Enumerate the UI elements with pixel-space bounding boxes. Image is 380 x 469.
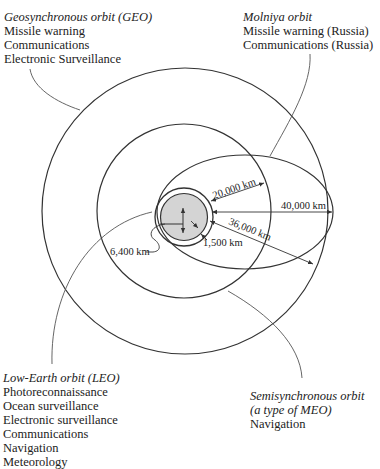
meo-leader-line	[228, 291, 302, 378]
leo-label-block: Low-Earth orbit (LEO) Photoreconnaissanc…	[3, 371, 120, 469]
meo-dimension-label: 20,000 km	[211, 176, 257, 201]
leo-use-5: Navigation	[3, 441, 120, 455]
molniya-leader-line	[270, 54, 310, 156]
geo-use-3: Electronic Surveillance	[4, 52, 152, 66]
leo-use-2: Ocean surveillance	[3, 399, 120, 413]
geo-leader-line	[30, 69, 80, 110]
geo-label-block: Geosynchronous orbit (GEO) Missile warni…	[4, 10, 152, 66]
earth	[161, 194, 208, 241]
leo-use-6: Meteorology	[3, 455, 120, 469]
leo-use-4: Communications	[3, 427, 120, 441]
leo-leader-line	[52, 212, 152, 364]
meo-title-line2: (a type of MEO)	[250, 403, 364, 417]
leo-dimension-label: 1,500 km	[203, 237, 243, 248]
geo-use-2: Communications	[4, 38, 152, 52]
leo-title: Low-Earth orbit (LEO)	[3, 371, 120, 385]
geo-use-1: Missile warning	[4, 24, 152, 38]
meo-title-line1: Semisynchronous orbit	[250, 389, 364, 403]
molniya-title: Molniya orbit	[243, 10, 373, 24]
molniya-dimension-label: 40,000 km	[281, 200, 326, 211]
molniya-label-block: Molniya orbit Missile warning (Russia) C…	[243, 10, 373, 52]
molniya-use-2: Communications (Russia)	[243, 38, 373, 52]
geo-title: Geosynchronous orbit (GEO)	[4, 10, 152, 24]
earth-radius-label: 6,400 km	[110, 246, 150, 257]
molniya-use-1: Missile warning (Russia)	[243, 24, 373, 38]
meo-use-1: Navigation	[250, 417, 364, 431]
leo-use-3: Electronic surveillance	[3, 413, 120, 427]
meo-label-block: Semisynchronous orbit (a type of MEO) Na…	[250, 389, 364, 431]
leo-use-1: Photoreconnaissance	[3, 385, 120, 399]
